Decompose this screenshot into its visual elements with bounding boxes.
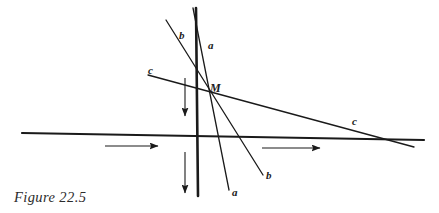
label-point-m: M (210, 82, 221, 94)
label-line-b-upper: b (179, 30, 185, 41)
label-line-a-upper: a (208, 40, 214, 51)
label-line-c-left: c (148, 65, 153, 76)
label-line-a-lower: a (232, 187, 238, 198)
figure-caption: Figure 22.5 (14, 189, 86, 206)
label-line-c-right: c (352, 116, 357, 127)
label-line-b-lower: b (266, 170, 272, 181)
line-b (166, 20, 263, 175)
geometry-diagram (0, 0, 439, 213)
mirror-vertical-line (196, 8, 198, 196)
figure-22-5: b a c M c b a Figure 22.5 (0, 0, 439, 213)
